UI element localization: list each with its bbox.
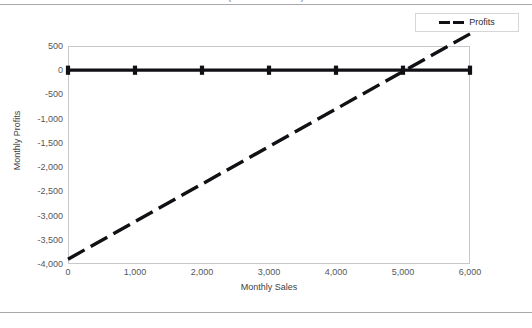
y-tick-label: -3,000 — [1, 211, 63, 220]
x-tick-label: 3,000 — [258, 268, 281, 277]
bottom-divider — [0, 312, 532, 313]
x-tick-label: 1,000 — [124, 268, 147, 277]
x-axis-title: Monthly Sales — [68, 283, 470, 292]
clipped-caption: (Sales and Profits) — [0, 0, 532, 3]
y-tick-label: -1,500 — [1, 138, 63, 147]
x-tick-label: 2,000 — [191, 268, 214, 277]
legend-swatch-profits — [439, 21, 464, 24]
y-tick-label: -2,000 — [1, 163, 63, 172]
y-tick-label: 500 — [1, 42, 63, 51]
y-axis-title: Monthly Profits — [13, 86, 22, 196]
chart-page: (Sales and Profits) Profits 500 0 -500 -… — [0, 0, 532, 328]
y-tick-label: -500 — [1, 90, 63, 99]
x-tick-label: 6,000 — [459, 268, 482, 277]
chart-legend[interactable]: Profits — [415, 13, 519, 32]
y-tick-label: 0 — [1, 66, 63, 75]
y-axis-tick-labels: 500 0 -500 -1,000 -1,500 -2,000 -2,500 -… — [0, 46, 63, 264]
x-tick-label: 4,000 — [325, 268, 348, 277]
y-tick-label: -1,000 — [1, 114, 63, 123]
y-tick-label: -4,000 — [1, 260, 63, 269]
y-tick-label: -3,500 — [1, 235, 63, 244]
y-tick-label: -2,500 — [1, 187, 63, 196]
x-tick-label: 0 — [65, 268, 70, 277]
series-layer — [68, 46, 470, 264]
top-divider — [0, 4, 532, 5]
legend-label-profits: Profits — [469, 18, 495, 27]
x-tick-label: 5,000 — [392, 268, 415, 277]
x-axis-tick-labels: 0 1,000 2,000 3,000 4,000 5,000 6,000 — [68, 268, 470, 282]
